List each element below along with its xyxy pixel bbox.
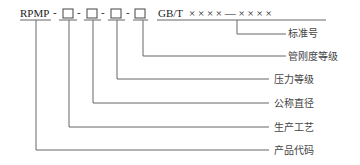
label-stiffness-class: 管刚度等级 [288, 50, 338, 62]
connector-stiffness-class [143, 20, 286, 56]
connector-standard-number [237, 20, 286, 34]
placeholder-box-stiffness [135, 9, 145, 18]
standard-text: GB/T [158, 7, 183, 19]
placeholder-box-diameter [87, 9, 97, 18]
label-pressure-class: 压力等级 [274, 73, 314, 85]
placeholder-box-pressure [111, 9, 121, 18]
separator-3: - [101, 6, 105, 18]
placeholder-box-process [63, 9, 73, 18]
product-code-diagram: RPMP - - - - GB/T × × × × — × × × × 标准号 … [0, 0, 360, 165]
connector-production-process [69, 20, 269, 127]
standard-number-text: × × × × — × × × × [189, 7, 272, 19]
label-product-code: 产品代码 [274, 144, 314, 156]
separator-1: - [53, 6, 57, 18]
connector-pressure-class [117, 20, 269, 79]
label-nominal-diameter: 公称直径 [274, 97, 314, 109]
separator-2: - [77, 6, 81, 18]
separator-4: - [126, 6, 130, 18]
label-standard-number: 标准号 [288, 28, 318, 39]
prefix-text: RPMP [20, 7, 49, 19]
connector-nominal-diameter [93, 20, 269, 103]
connector-product-code [36, 20, 269, 150]
label-production-process: 生产工艺 [274, 121, 314, 133]
